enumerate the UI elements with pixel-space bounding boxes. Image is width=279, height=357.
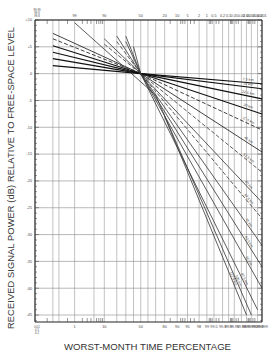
x-top-tick-label: 20 [163,14,167,18]
x-top-tick-label: 2 [198,14,200,18]
y-tick-label: -25 [27,206,33,210]
y-tick-label: -45 [27,313,33,317]
curve-7-5-km [53,66,262,84]
x-bottom-tick-label: 99 [205,325,209,329]
x-bottom-tick-label: 99.999 [256,325,268,329]
x-top-tick-label: 5 [186,14,188,18]
curve-label: 15 km [243,81,253,86]
x-bottom-tick-label: 0.2 [35,331,39,335]
x-bottom-tick-label: 1 [74,325,76,329]
chart-curves: 7.5 km15 km22.5 km30 km37.5 km45 km52.5 … [53,23,262,315]
x-top-tick-label: 0.2 [220,14,225,18]
x-bottom-tick-label: 10 [102,325,106,329]
y-tick-label: -30 [27,233,33,237]
chart-grid [35,20,262,322]
y-tick-label: -5 [29,99,32,103]
y-tick-label: -10 [27,126,33,130]
curve-label: 90 km [245,256,253,266]
y-tick-label: -35 [27,260,33,264]
x-top-tick-label: 50 [139,14,143,18]
y-tick-label: 0 [30,72,32,76]
x-top-tick-label: 90 [102,14,106,18]
x-top-tick-label: 1 [206,14,208,18]
tick-labels: 99.9999.999.899905020105210.50.20.10.050… [26,8,268,335]
x-axis-title: WORST-MONTH TIME PERCENTAGE [0,341,279,352]
x-bottom-tick-label: 80 [163,325,167,329]
y-axis-title: RECEIVED SIGNAL POWER (dB) RELATIVE TO F… [0,0,22,357]
curve-label: 67.5 km [243,193,254,205]
x-top-tick-label: 0.001 [257,14,267,18]
x-bottom-tick-label: 98 [197,325,201,329]
x-top-tick-label: 99.8 [34,14,40,18]
curve-52-5-km [104,44,262,172]
y-tick-label: +10 [26,18,32,22]
y-tick-label: -20 [27,179,33,183]
y-tick-label: -40 [27,287,33,291]
x-bottom-tick-label: 90 [175,325,179,329]
x-bottom-tick-label: 99.5 [210,325,217,329]
x-top-tick-label: 0.5 [211,14,216,18]
y-tick-label: +5 [28,45,32,49]
y-tick-label: -15 [27,152,33,156]
axis-ticks [35,20,262,322]
x-top-tick-label: 10 [175,14,179,18]
x-top-tick-label: 99 [72,14,76,18]
x-bottom-tick-label: 95 [185,325,189,329]
fading-distribution-chart: 7.5 km15 km22.5 km30 km37.5 km45 km52.5 … [0,0,279,357]
x-bottom-tick-label: 50 [139,325,143,329]
